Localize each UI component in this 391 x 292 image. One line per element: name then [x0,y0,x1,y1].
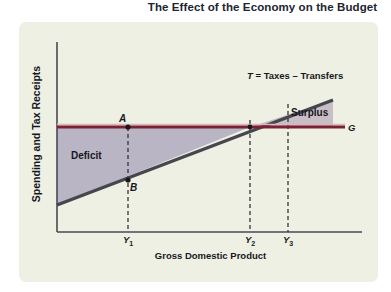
point-e-marker [248,125,253,130]
x-tick-label-y1: Y1 [113,234,143,247]
g-line-label: G [348,122,355,133]
t-line-equation: = Taxes – Transfers [253,70,343,81]
t-line-label: T = Taxes – Transfers [247,70,343,81]
tick-y3-sub: 3 [289,240,293,247]
chart-plot-area [0,0,391,292]
figure-container: The Effect of the Economy on the Budget … [0,0,391,292]
x-tick-label-y2: Y2 [235,234,265,247]
point-a-marker [125,124,130,129]
point-a-label: A [119,113,126,124]
surplus-region-label: Surplus [291,107,328,118]
point-b-label: B [130,182,137,193]
tick-y1-sub: 1 [129,240,133,247]
deficit-region-label: Deficit [71,150,102,161]
x-tick-label-y3: Y3 [273,234,303,247]
y-axis-label: Spending and Tax Receipts [30,54,42,214]
x-axis-label: Gross Domestic Product [118,250,303,261]
tick-y2-sub: 2 [251,240,255,247]
